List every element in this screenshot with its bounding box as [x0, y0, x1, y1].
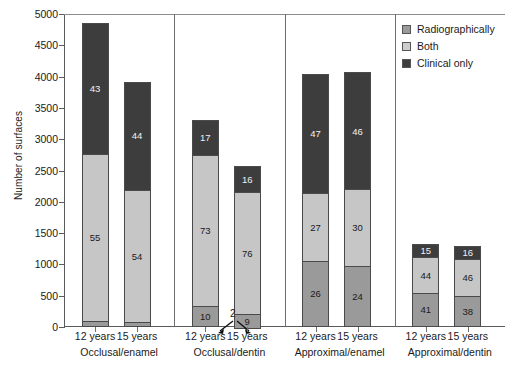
bar-segment-label: 46: [352, 127, 363, 137]
bar-segment[interactable]: 46: [454, 259, 481, 296]
y-axis-tick-label: 500: [18, 291, 58, 301]
bar-segment[interactable]: 38: [454, 296, 481, 327]
chart-container: Number of surfaces 500045004000350030002…: [0, 0, 509, 380]
x-axis-labels: 12 years15 yearsOcclusal/enamel12 years1…: [64, 331, 505, 379]
bar-segment[interactable]: 10: [192, 306, 219, 327]
stacked-bar[interactable]: 4454: [124, 82, 151, 327]
y-axis-tick-labels: 5000450040003500300025002000150010005000: [14, 0, 58, 380]
legend-label: Both: [417, 41, 439, 52]
bar-segment[interactable]: 55: [82, 154, 109, 321]
legend-label: Clinical only: [417, 58, 473, 69]
bar-segment-label: 44: [132, 131, 143, 141]
bar-segment[interactable]: 44: [124, 82, 151, 190]
bar-segment-label: 46: [462, 273, 473, 283]
stacked-bar[interactable]: 4355: [82, 23, 109, 327]
x-axis-category-label: 15 years: [212, 331, 282, 342]
x-axis-group-label: Approximal/dentin: [375, 347, 509, 358]
bar-segment[interactable]: 73: [192, 155, 219, 306]
stacked-bar[interactable]: 154441: [412, 244, 439, 327]
stacked-bar[interactable]: 463024: [344, 72, 371, 327]
bar-segment-label: 15: [420, 246, 431, 256]
stacked-bar[interactable]: 472726: [302, 74, 329, 327]
bar-segment-label: 10: [200, 312, 211, 322]
x-axis-category-label: 15 years: [323, 331, 393, 342]
bar-segment[interactable]: 15: [412, 244, 439, 256]
bar-segment-label: 38: [462, 307, 473, 317]
stacked-bar[interactable]: 177310: [192, 120, 219, 327]
bar-segment[interactable]: 16: [234, 166, 261, 192]
legend: RadiographicallyBothClinical only: [402, 22, 495, 73]
bar-segment-label: 41: [420, 305, 431, 315]
y-axis-tick-label: 1500: [18, 228, 58, 238]
x-axis-category-label: 15 years: [102, 331, 172, 342]
y-axis-tick-label: 2000: [18, 197, 58, 207]
y-axis-tick-label: 5000: [18, 9, 58, 19]
bar-segment[interactable]: 30: [344, 189, 371, 265]
y-axis-tick-label: 3500: [18, 103, 58, 113]
y-axis-tick-label: 1000: [18, 259, 58, 269]
bar-segment-label: 16: [242, 175, 253, 185]
x-axis-category-label: 15 years: [433, 331, 503, 342]
bar-segment[interactable]: 46: [344, 72, 371, 189]
group-separator: [395, 14, 396, 327]
bar-segment-label: 44: [420, 271, 431, 281]
y-axis-tick-label: 0: [18, 322, 58, 332]
bar-segment[interactable]: 44: [412, 257, 439, 293]
legend-swatch-icon: [402, 59, 411, 68]
bar-segment[interactable]: 27: [302, 193, 329, 261]
stacked-bar[interactable]: 164638: [454, 246, 481, 327]
bar-segment-label: 73: [200, 226, 211, 236]
bar-segment[interactable]: 54: [124, 190, 151, 323]
bar-segment-label: 47: [310, 129, 321, 139]
bar-segment-label: 17: [200, 133, 211, 143]
legend-swatch-icon: [402, 42, 411, 51]
bar-segment[interactable]: 47: [302, 74, 329, 193]
bar-segment-label: 26: [310, 289, 321, 299]
y-axis-tick-label: 4500: [18, 40, 58, 50]
legend-label: Radiographically: [417, 24, 495, 35]
stacked-bar[interactable]: 16769: [234, 166, 261, 327]
bar-segment-label: 24: [352, 292, 363, 302]
y-axis-tick-label: 4000: [18, 72, 58, 82]
legend-item[interactable]: Both: [402, 39, 495, 53]
bar-segment-label: 76: [242, 249, 253, 259]
y-axis-tick-label: 3000: [18, 134, 58, 144]
bar-segment-label: 30: [352, 223, 363, 233]
bar-segment[interactable]: 17: [192, 120, 219, 155]
y-axis-tick-label: 2500: [18, 166, 58, 176]
group-separator: [174, 14, 175, 327]
bar-segment-label: 27: [310, 223, 321, 233]
legend-item[interactable]: Radiographically: [402, 22, 495, 36]
bar-segment[interactable]: 26: [302, 261, 329, 327]
bar-segment[interactable]: 16: [454, 246, 481, 259]
bar-segment-label: 54: [132, 252, 143, 262]
bar-segment-label: 55: [90, 233, 101, 243]
bar-segment-label: 43: [90, 84, 101, 94]
bar-segment[interactable]: 24: [344, 266, 371, 327]
group-separator: [285, 14, 286, 327]
bar-segment[interactable]: 43: [82, 23, 109, 154]
bar-segment-label: 16: [462, 248, 473, 258]
legend-item[interactable]: Clinical only: [402, 56, 495, 70]
bar-segment[interactable]: 76: [234, 192, 261, 314]
legend-swatch-icon: [402, 25, 411, 34]
bar-segment[interactable]: 41: [412, 293, 439, 327]
